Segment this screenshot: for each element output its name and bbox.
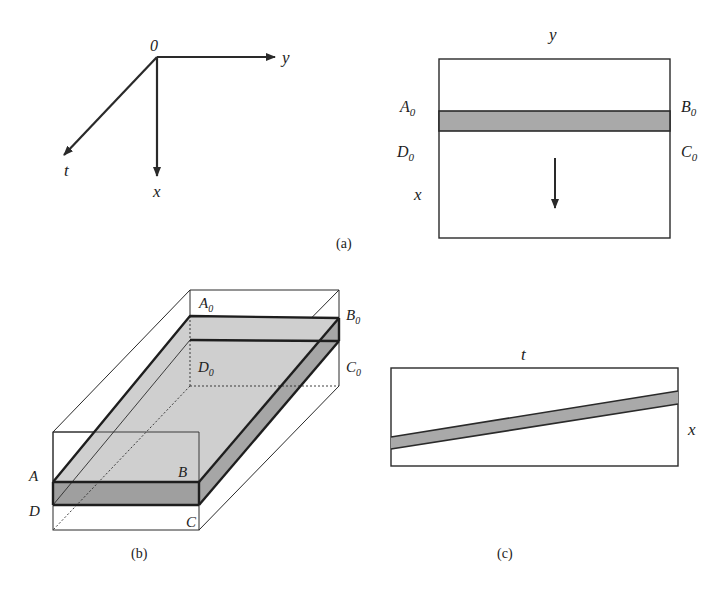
- t-x-side-label: x: [687, 420, 696, 439]
- label-b-C: C: [186, 514, 197, 530]
- plane-y-label: y: [547, 25, 557, 44]
- caption-b: (b): [131, 546, 148, 562]
- x-axis-label: x: [152, 182, 161, 201]
- trajectory-upper-edge: [391, 391, 678, 437]
- label-b-B: B: [178, 464, 187, 480]
- moving-band: [439, 111, 670, 131]
- t-x-top-label: t: [521, 345, 527, 364]
- slab-front-face: [53, 482, 199, 505]
- caption-c: (c): [497, 546, 513, 562]
- axes-diagram: 0 y x t: [64, 37, 290, 201]
- label-D0: D0: [396, 143, 415, 163]
- plane-view-diagram: y x A0 D0 B0 C0: [396, 25, 698, 238]
- y-axis-label: y: [280, 48, 290, 67]
- figure-canvas: 0 y x t y x A0 D0 B0 C0 (a): [0, 0, 719, 593]
- t-axis-label: t: [64, 161, 70, 180]
- plane-x-label: x: [413, 185, 422, 204]
- t-x-plane-diagram: t x: [391, 345, 696, 466]
- trajectory-lower-edge: [391, 404, 678, 449]
- plane-boundary: [439, 59, 670, 238]
- label-C0: C0: [681, 143, 698, 163]
- label-A0: A0: [399, 98, 416, 118]
- label-b-B0: B0: [346, 307, 360, 326]
- label-b-A0: A0: [198, 295, 213, 314]
- slab-3d-diagram: A0 B0 D0 C0 A B D C: [28, 290, 361, 530]
- origin-label: 0: [150, 37, 158, 54]
- t-axis-arrow: [64, 57, 157, 155]
- trajectory-band: [391, 391, 678, 449]
- label-b-C0: C0: [346, 359, 361, 378]
- label-b-A: A: [28, 468, 39, 484]
- caption-a: (a): [336, 236, 352, 252]
- label-B0: B0: [681, 98, 697, 118]
- label-b-D: D: [28, 503, 40, 519]
